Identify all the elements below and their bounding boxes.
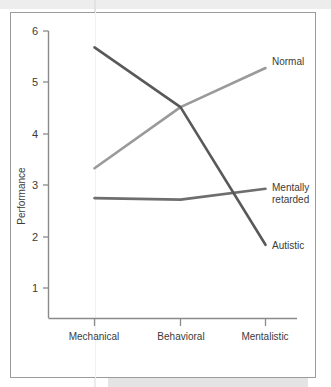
y-axis-tick-labels: 6 5 4 3 2 1 (32, 25, 38, 294)
series-label-mentally-retarded-line1: Mentally (272, 182, 309, 193)
series-line-mentally-retarded (95, 189, 266, 200)
y-tick-label-1: 1 (32, 282, 38, 294)
y-tick-label-4: 4 (32, 128, 38, 140)
series-line-normal (95, 68, 266, 168)
y-tick-label-6: 6 (32, 25, 38, 37)
y-tick-label-2: 2 (32, 231, 38, 243)
y-tick-label-5: 5 (32, 76, 38, 88)
x-tick-label-behavioral: Behavioral (157, 331, 204, 342)
x-axis-tick-labels: Mechanical Behavioral Mentalistic (69, 331, 289, 342)
series-lines (95, 47, 266, 244)
y-tick-label-3: 3 (32, 179, 38, 191)
axes (49, 31, 298, 319)
x-axis-ticks (95, 319, 266, 327)
series-labels: Normal Mentally retarded Autistic (272, 56, 309, 251)
x-tick-label-mentalistic: Mentalistic (241, 331, 288, 342)
series-label-mentally-retarded-line2: retarded (272, 194, 309, 205)
x-tick-label-mechanical: Mechanical (69, 331, 120, 342)
y-axis-title: Performance (16, 167, 27, 225)
series-label-normal: Normal (272, 56, 304, 67)
figure-container: 6 5 4 3 2 1 Performance Mechanical Behav… (0, 0, 331, 387)
line-chart: 6 5 4 3 2 1 Performance Mechanical Behav… (0, 0, 331, 387)
y-axis-ticks (43, 31, 49, 288)
series-line-autistic (95, 47, 266, 244)
series-label-autistic: Autistic (272, 240, 304, 251)
